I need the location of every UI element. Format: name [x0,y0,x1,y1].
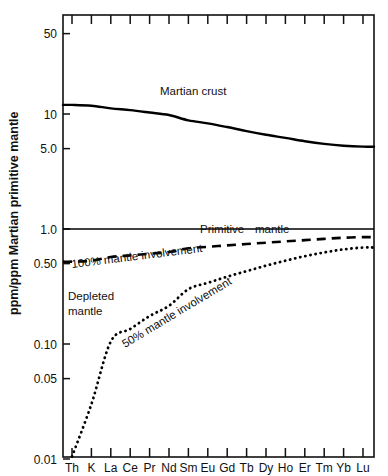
plot-frame [63,15,374,457]
x-tick-label: Tm [316,461,333,475]
annotation-martian-crust: Martian crust [160,85,227,97]
x-tick-label: Ho [278,461,294,475]
x-tick-label: Eu [200,461,215,475]
x-tick-label: La [104,461,118,475]
annotation-mantle: mantle [255,223,290,235]
x-tick-label: Ce [123,461,139,475]
chart-figure: 50105.01.00.500.100.050.01 ThKLaCePrNdSm… [0,0,388,476]
annotation-100-mantle-involvement: 100% mantle involvement [71,242,204,270]
x-tick-label: Th [65,461,79,475]
y-tick-label: 5.0 [40,142,57,156]
x-tick-label: Gd [219,461,235,475]
chart-canvas: 50105.01.00.500.100.050.01 ThKLaCePrNdSm… [0,0,388,476]
y-tick-label: 0.05 [34,372,58,386]
chart-annotations: Martian crustPrimitivemantle100% mantle … [68,85,290,350]
annotation-50-mantle-involvement: 50% mantle involvement [120,274,234,349]
annotation-primitive: Primitive [200,223,244,235]
y-tick-label: 0.01 [34,453,58,467]
x-tick-label: Tb [240,461,254,475]
x-tick-label: Sm [179,461,197,475]
y-tick-label: 0.10 [34,338,58,352]
y-axis-ticks: 50105.01.00.500.100.050.01 [34,27,70,466]
x-axis-ticks [72,15,363,457]
y-tick-label: 1.0 [40,223,57,237]
annotation-mantle: mantle [68,305,103,317]
x-tick-label: Pr [144,461,156,475]
x-tick-label: K [87,461,95,475]
x-axis-labels: ThKLaCePrNdSmEuGdTbDyHoErTmYbLu [65,461,370,475]
y-tick-label: 10 [44,108,58,122]
y-axis-title: ppm/ppm Martian primitive mantle [7,111,21,315]
x-tick-label: Yb [336,461,351,475]
series-line-martian-crust [63,105,374,147]
x-tick-label: Dy [259,461,274,475]
y-tick-label: 50 [44,27,58,41]
x-tick-label: Nd [161,461,176,475]
annotation-depleted: Depleted [68,290,114,302]
x-tick-label: Er [299,461,311,475]
x-tick-label: Lu [356,461,369,475]
y-tick-label: 0.50 [34,257,58,271]
